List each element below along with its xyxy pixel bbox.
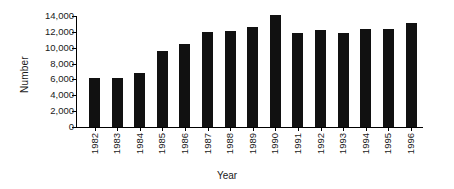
bar (383, 29, 394, 127)
bar (360, 29, 371, 127)
x-tick-mark (95, 127, 96, 131)
x-tick-label: 1995 (383, 133, 393, 154)
x-tick-mark (208, 127, 209, 131)
bar (202, 32, 213, 127)
bar (270, 15, 281, 127)
y-axis-line (76, 16, 77, 127)
x-tick-mark (343, 127, 344, 131)
bar (89, 78, 100, 127)
x-tick-label: 1990 (270, 133, 280, 154)
x-tick-label: 1987 (203, 133, 213, 154)
bar-chart-figure: Number 14,00012,00010,0008,0006,0004,000… (0, 0, 454, 189)
bar (247, 27, 258, 127)
x-tick-mark (185, 127, 186, 131)
x-tick-label: 1986 (180, 133, 190, 154)
y-tick-label: 6,000 (50, 73, 74, 84)
x-tick-label: 1992 (316, 133, 326, 154)
x-tick-mark (275, 127, 276, 131)
y-tick-label: 12,000 (45, 26, 74, 37)
x-tick-label: 1984 (135, 133, 145, 154)
bar (292, 33, 303, 127)
x-tick-label: 1988 (225, 133, 235, 154)
x-tick-mark (162, 127, 163, 131)
y-tick-label: 10,000 (45, 42, 74, 53)
x-axis-title: Year (0, 170, 454, 181)
x-tick-mark (321, 127, 322, 131)
y-tick-label: 14,000 (45, 10, 74, 21)
bar (338, 33, 349, 127)
x-tick-label: 1994 (361, 133, 371, 154)
bar (134, 73, 145, 127)
x-tick-mark (253, 127, 254, 131)
x-axis-line (76, 127, 423, 128)
x-tick-label: 1982 (90, 133, 100, 154)
x-tick-mark (298, 127, 299, 131)
x-tick-mark (411, 127, 412, 131)
x-tick-mark (230, 127, 231, 131)
x-tick-mark (117, 127, 118, 131)
y-axis-title: Number (14, 38, 34, 112)
x-tick-mark (388, 127, 389, 131)
bar (157, 51, 168, 127)
x-tick-label: 1991 (293, 133, 303, 154)
x-tick-mark (140, 127, 141, 131)
y-tick-label: 8,000 (50, 58, 74, 69)
bar (225, 31, 236, 127)
bar (179, 44, 190, 127)
y-tick-label: 0 (69, 121, 74, 132)
x-tick-mark (366, 127, 367, 131)
plot-area: 14,00012,00010,0008,0006,0004,0002,0000 (76, 16, 423, 127)
y-tick-label: 2,000 (50, 105, 74, 116)
x-tick-label: 1996 (406, 133, 416, 154)
x-tick-label: 1985 (157, 133, 167, 154)
bar (112, 78, 123, 127)
x-tick-label: 1983 (112, 133, 122, 154)
bar (406, 23, 417, 127)
x-tick-label: 1989 (248, 133, 258, 154)
x-tick-label: 1993 (338, 133, 348, 154)
y-tick-label: 4,000 (50, 89, 74, 100)
bar (315, 30, 326, 127)
